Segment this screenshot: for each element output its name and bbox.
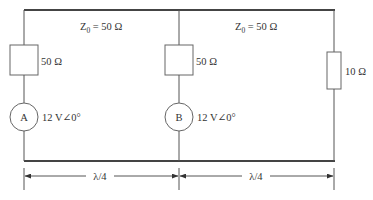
source-a-value: 12 V∠0° (42, 112, 81, 123)
source-a-letter: A (20, 112, 28, 123)
circuit-diagram: Z0 = 50 Ω Z0 = 50 Ω 50 Ω 50 Ω 10 Ω A B 1… (0, 0, 373, 200)
branch-source-b (165, 10, 193, 161)
line-1-length-label: λ/4 (93, 171, 107, 182)
series-impedance-a-box (10, 45, 38, 75)
series-impedance-b-label: 50 Ω (196, 56, 217, 67)
line-2-length-label: λ/4 (249, 171, 263, 182)
series-impedance-b-box (165, 45, 193, 75)
source-b-value: 12 V∠0° (197, 112, 236, 123)
source-b-letter: B (175, 112, 182, 123)
load-label: 10 Ω (345, 66, 366, 77)
line-2-impedance-label: Z0 = 50 Ω (235, 21, 277, 35)
load-resistor (327, 52, 341, 89)
line-1-impedance-label: Z0 = 50 Ω (80, 21, 122, 35)
series-impedance-a-label: 50 Ω (41, 56, 62, 67)
branch-load (327, 10, 341, 161)
branch-source-a (10, 10, 38, 161)
